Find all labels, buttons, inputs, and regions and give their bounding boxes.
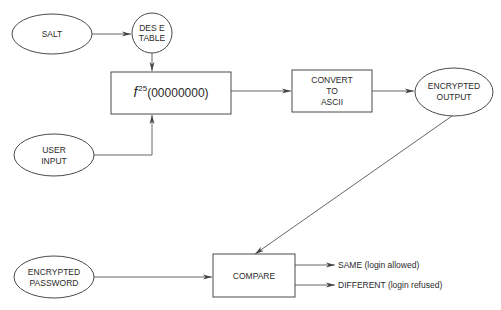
node-des-table-label-line1: DES E bbox=[139, 23, 165, 33]
node-user-input: USER INPUT bbox=[14, 134, 94, 176]
outcome-different-label: DIFFERENT (login refused) bbox=[338, 280, 442, 290]
node-convert-label-line2: TO bbox=[326, 86, 338, 96]
outcome-same-label: SAME (login allowed) bbox=[338, 260, 419, 270]
node-salt: SALT bbox=[12, 14, 92, 54]
node-convert-label-line3: ASCII bbox=[321, 97, 343, 107]
node-user-input-label-line2: INPUT bbox=[41, 156, 67, 166]
password-encryption-flowchart: SALT DES E TABLE f25(00000000) USER INPU… bbox=[0, 0, 501, 310]
edge-encrypted-output-to-compare bbox=[255, 116, 452, 254]
node-encrypted-password-label-line2: PASSWORD bbox=[30, 278, 79, 288]
node-salt-label: SALT bbox=[42, 29, 63, 39]
node-encrypted-output-label-line2: OUTPUT bbox=[437, 92, 472, 102]
node-encrypted-output: ENCRYPTED OUTPUT bbox=[415, 68, 493, 116]
function-argument: (00000000) bbox=[147, 86, 208, 100]
node-convert-to-ascii: CONVERT TO ASCII bbox=[292, 70, 372, 112]
node-convert-label-line1: CONVERT bbox=[311, 75, 352, 85]
node-encrypted-password-label-line1: ENCRYPTED bbox=[28, 267, 80, 277]
node-des-table: DES E TABLE bbox=[132, 13, 172, 53]
node-des-table-label-line2: TABLE bbox=[139, 33, 166, 43]
edge-user-input-to-function bbox=[94, 115, 152, 155]
node-function: f25(00000000) bbox=[111, 72, 231, 114]
node-user-input-label-line1: USER bbox=[42, 145, 66, 155]
node-encrypted-password: ENCRYPTED PASSWORD bbox=[14, 256, 94, 298]
node-compare-label: COMPARE bbox=[233, 271, 276, 281]
node-encrypted-output-label-line1: ENCRYPTED bbox=[428, 81, 480, 91]
node-compare: COMPARE bbox=[213, 254, 295, 297]
